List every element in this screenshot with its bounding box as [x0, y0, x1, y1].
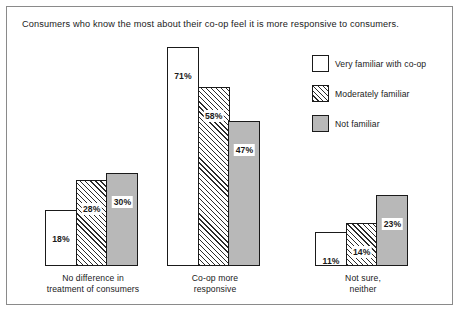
bar-value-label: 11% [321, 255, 341, 267]
bar-value-label: 28% [81, 203, 102, 215]
bar: 28% [76, 180, 108, 266]
bar-value-label: 47% [234, 144, 255, 156]
bar: 11% [315, 232, 347, 266]
bar-value-label: 58% [203, 110, 224, 122]
chart-frame: Consumers who know the most about their … [6, 6, 453, 305]
bar: 30% [106, 173, 138, 266]
bar-value-label: 14% [351, 246, 372, 258]
bar: 23% [376, 195, 408, 266]
bar-value-label: 30% [112, 196, 133, 208]
bar-value-label: 71% [173, 70, 194, 82]
category-label: No difference intreatment of consumers [47, 273, 139, 295]
bars: 11%14%23% [315, 195, 407, 266]
bars: 71%58%47% [167, 47, 259, 266]
category-label-line: treatment of consumers [47, 284, 139, 295]
category-label: Co-op moreresponsive [192, 273, 238, 295]
category-label-line: Not sure, [345, 273, 381, 284]
category-label-line: Co-op more [192, 273, 238, 284]
bar-value-label: 23% [382, 218, 403, 230]
bar-group: 71%58%47%Co-op moreresponsive [167, 47, 263, 266]
bar: 47% [228, 121, 260, 266]
bar: 71% [167, 47, 199, 266]
category-label-line: No difference in [47, 273, 139, 284]
bar: 14% [346, 223, 378, 266]
bar: 18% [45, 210, 77, 266]
bars: 18%28%30% [45, 173, 137, 266]
bar-value-label: 18% [51, 233, 72, 245]
category-label: Not sure,neither [345, 273, 381, 295]
bar: 58% [198, 87, 230, 266]
category-label-line: responsive [192, 284, 238, 295]
bar-group: 18%28%30%No difference intreatment of co… [45, 47, 141, 266]
category-label-line: neither [345, 284, 381, 295]
plot-area: 18%28%30%No difference intreatment of co… [7, 7, 454, 306]
bar-group: 11%14%23%Not sure,neither [315, 47, 411, 266]
